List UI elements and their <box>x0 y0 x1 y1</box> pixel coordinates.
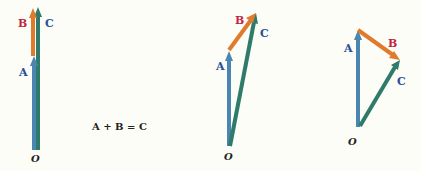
origin-label: O <box>31 153 40 164</box>
vector-a-arrowhead <box>225 51 233 61</box>
equation-label: A + B = C <box>92 121 147 132</box>
label-a: A <box>215 60 225 73</box>
diagram-acute: B C A O <box>215 13 269 162</box>
label-c: C <box>45 17 54 30</box>
label-b: B <box>388 37 397 50</box>
label-a: A <box>18 66 28 79</box>
label-b: B <box>235 14 244 27</box>
vector-addition-diagram: B C A O B C A O B C A O <box>0 0 421 171</box>
label-c: C <box>260 27 269 40</box>
vector-c <box>360 67 395 126</box>
label-c: C <box>397 75 406 88</box>
diagram-collinear: B C A O <box>18 7 54 164</box>
diagram-obtuse: B C A O <box>343 30 406 147</box>
origin-label: O <box>224 151 233 162</box>
origin-label: O <box>348 136 357 147</box>
label-a: A <box>343 42 353 55</box>
label-b: B <box>18 17 27 30</box>
